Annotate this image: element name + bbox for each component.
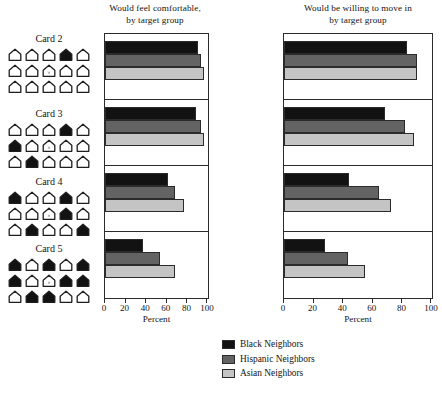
card-block-2: Card 2× bbox=[0, 33, 98, 95]
house-filled-icon bbox=[58, 190, 75, 206]
left-panel-title-line2: by target group bbox=[99, 15, 211, 27]
house-self-marker-icon: × bbox=[41, 273, 58, 289]
house-filled-icon bbox=[7, 138, 24, 154]
legend-label: Asian Neighbors bbox=[240, 368, 303, 379]
house-outline-icon bbox=[24, 122, 41, 138]
card-block-3: Card 3× bbox=[0, 108, 98, 170]
house-filled-icon bbox=[7, 190, 24, 206]
house-filled-icon bbox=[58, 206, 75, 222]
legend-label: Hispanic Neighbors bbox=[240, 354, 315, 365]
right-bar-card-5-asian bbox=[284, 265, 365, 278]
house-filled-icon bbox=[58, 122, 75, 138]
house-filled-icon bbox=[58, 47, 75, 63]
house-outline-icon bbox=[58, 138, 75, 154]
house-outline-icon bbox=[24, 206, 41, 222]
house-filled-icon bbox=[24, 222, 41, 238]
legend-item: Asian Neighbors bbox=[222, 367, 382, 380]
house-outline-icon bbox=[24, 47, 41, 63]
right-plot-area bbox=[283, 33, 433, 299]
card-block-5: Card 5× bbox=[0, 243, 98, 305]
left-bar-card-2-hispanic bbox=[105, 54, 201, 67]
right-x-tick-label: 0 bbox=[281, 303, 286, 314]
left-x-tick-label: 20 bbox=[120, 303, 129, 314]
house-outline-icon bbox=[58, 222, 75, 238]
left-bar-group-card-2 bbox=[105, 34, 208, 100]
house-outline-icon bbox=[24, 273, 41, 289]
house-outline-icon bbox=[58, 257, 75, 273]
left-bar-card-3-black bbox=[105, 107, 196, 120]
right-bar-group-card-4 bbox=[284, 166, 432, 232]
left-x-tick-label: 100 bbox=[200, 303, 214, 314]
legend-label: Black Neighbors bbox=[240, 339, 303, 350]
house-grid: × bbox=[0, 190, 98, 238]
house-outline-icon bbox=[24, 79, 41, 95]
right-bar-group-card-5 bbox=[284, 232, 432, 298]
left-x-tick-label: 40 bbox=[141, 303, 150, 314]
house-outline-icon bbox=[7, 79, 24, 95]
house-outline-icon bbox=[75, 138, 92, 154]
house-filled-icon bbox=[24, 289, 41, 305]
house-outline-icon bbox=[7, 222, 24, 238]
right-x-tick-label: 20 bbox=[308, 303, 317, 314]
house-outline-icon bbox=[75, 122, 92, 138]
legend-item: Hispanic Neighbors bbox=[222, 353, 382, 366]
legend: Black NeighborsHispanic NeighborsAsian N… bbox=[222, 338, 382, 382]
house-outline-icon bbox=[75, 154, 92, 170]
left-bar-card-4-black bbox=[105, 173, 168, 186]
house-outline-icon bbox=[24, 63, 41, 79]
house-outline-icon bbox=[41, 190, 58, 206]
house-self-marker-icon: × bbox=[41, 138, 58, 154]
house-outline-icon bbox=[7, 47, 24, 63]
left-bar-card-3-asian bbox=[105, 133, 204, 146]
house-outline-icon bbox=[7, 154, 24, 170]
left-x-axis: Percent 020406080100 bbox=[104, 299, 209, 325]
right-x-axis-title: Percent bbox=[283, 314, 433, 324]
right-x-tick-label: 80 bbox=[397, 303, 406, 314]
right-bar-card-2-black bbox=[284, 41, 407, 54]
house-outline-icon bbox=[7, 122, 24, 138]
house-outline-icon bbox=[75, 79, 92, 95]
left-bar-card-3-hispanic bbox=[105, 120, 201, 133]
svg-text:×: × bbox=[48, 213, 51, 219]
house-outline-icon bbox=[41, 122, 58, 138]
legend-item: Black Neighbors bbox=[222, 338, 382, 351]
right-x-tick-label: 60 bbox=[367, 303, 376, 314]
house-self-marker-icon: × bbox=[41, 206, 58, 222]
right-panel-title: Would be willing to move in by target gr… bbox=[278, 3, 438, 26]
svg-text:×: × bbox=[48, 145, 51, 151]
house-outline-icon bbox=[41, 222, 58, 238]
house-outline-icon bbox=[75, 289, 92, 305]
left-bar-card-4-asian bbox=[105, 199, 184, 212]
chart-canvas: Would feel comfortable, by target group … bbox=[0, 0, 442, 397]
house-outline-icon bbox=[75, 63, 92, 79]
left-bar-group-card-3 bbox=[105, 100, 208, 166]
house-outline-icon bbox=[24, 257, 41, 273]
house-outline-icon bbox=[41, 47, 58, 63]
left-x-axis-title: Percent bbox=[104, 314, 209, 324]
house-filled-icon bbox=[24, 154, 41, 170]
house-outline-icon bbox=[7, 206, 24, 222]
house-outline-icon bbox=[24, 138, 41, 154]
house-filled-icon bbox=[58, 273, 75, 289]
house-filled-icon bbox=[75, 222, 92, 238]
svg-text:×: × bbox=[48, 70, 51, 76]
legend-swatch-hispanic bbox=[222, 355, 235, 364]
house-outline-icon bbox=[58, 63, 75, 79]
right-x-tick-label: 40 bbox=[338, 303, 347, 314]
right-bar-group-card-2 bbox=[284, 34, 432, 100]
house-outline-icon bbox=[58, 289, 75, 305]
house-outline-icon bbox=[75, 47, 92, 63]
left-bar-group-card-5 bbox=[105, 232, 208, 298]
house-outline-icon bbox=[41, 154, 58, 170]
left-panel-title: Would feel comfortable, by target group bbox=[99, 3, 211, 26]
left-x-tick-label: 60 bbox=[161, 303, 170, 314]
card-label: Card 4 bbox=[0, 176, 98, 188]
right-bar-card-3-black bbox=[284, 107, 385, 120]
house-filled-icon bbox=[41, 257, 58, 273]
left-bar-card-2-asian bbox=[105, 67, 204, 80]
house-outline-icon bbox=[41, 79, 58, 95]
house-filled-icon bbox=[41, 289, 58, 305]
house-outline-icon bbox=[75, 190, 92, 206]
house-outline-icon bbox=[7, 289, 24, 305]
right-bar-card-5-hispanic bbox=[284, 252, 348, 265]
